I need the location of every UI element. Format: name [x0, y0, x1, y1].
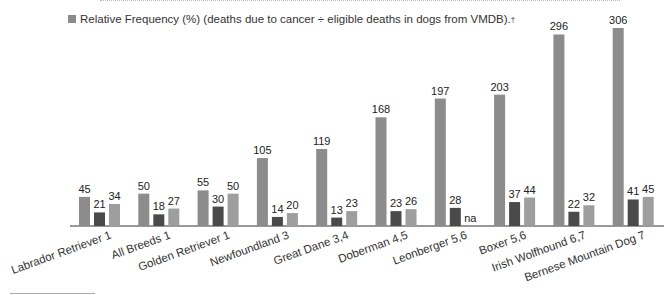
- footnote-rule: [10, 293, 95, 294]
- bar: [331, 218, 342, 226]
- bar-value-label: 50: [138, 180, 150, 192]
- bar-value-label: 41: [627, 185, 639, 197]
- bar: [138, 194, 149, 226]
- bar-value-label: 50: [227, 180, 239, 192]
- bar-value-label: 34: [108, 190, 120, 202]
- bar-value-label: 30: [212, 193, 224, 205]
- bar-value-label: 197: [431, 85, 449, 97]
- bar: [628, 199, 639, 226]
- bar: [435, 99, 446, 226]
- bar-value-label: 18: [153, 200, 165, 212]
- bar: [153, 214, 164, 226]
- bar-value-label: 21: [93, 198, 105, 210]
- bar: [568, 212, 579, 226]
- bar-value-label: 22: [568, 198, 580, 210]
- bar: [406, 209, 417, 226]
- bar: [524, 198, 535, 226]
- bar: [583, 205, 594, 226]
- bar: [257, 158, 268, 226]
- bar-value-label: 45: [78, 183, 90, 195]
- bar-value-label: 23: [346, 197, 358, 209]
- bar-value-label: 23: [390, 197, 402, 209]
- bar-value-label: 119: [313, 135, 331, 147]
- bar: [228, 194, 239, 226]
- bar: [109, 204, 120, 226]
- category-label: Labrador Retriever 1: [9, 229, 112, 276]
- bar: [494, 95, 505, 226]
- bar-value-label: 44: [523, 184, 535, 196]
- bar: [79, 197, 90, 226]
- bar-value-label: 26: [405, 195, 417, 207]
- bar-value-label: 14: [271, 203, 283, 215]
- bar-value-label: 28: [449, 194, 461, 206]
- bar-value-label: 296: [550, 20, 568, 32]
- bar: [391, 211, 402, 226]
- bar-value-label: 13: [331, 204, 343, 216]
- bar: [272, 217, 283, 226]
- bar-value-label: 32: [583, 191, 595, 203]
- bar-value-label: 168: [372, 103, 390, 115]
- bar: [376, 117, 387, 226]
- bar: [553, 34, 564, 226]
- bar: [198, 190, 209, 226]
- bar-value-label: 20: [286, 199, 298, 211]
- bar-value-label: 55: [197, 176, 209, 188]
- bar: [94, 212, 105, 226]
- bar-value-label: 45: [642, 183, 654, 195]
- bar-value-label: 37: [508, 188, 520, 200]
- bar: [613, 28, 624, 226]
- bar-value-label: 105: [253, 144, 271, 156]
- bar-value-label: 27: [168, 195, 180, 207]
- bar: [509, 202, 520, 226]
- bar: [213, 207, 224, 226]
- bar-value-label: 306: [609, 14, 627, 26]
- bar: [450, 208, 461, 226]
- bar: [168, 209, 179, 226]
- bar-value-label: na: [464, 212, 477, 224]
- bar: [643, 197, 654, 226]
- bar: [287, 213, 298, 226]
- bar-chart: 452134Labrador Retriever 1501827All Bree…: [0, 0, 671, 295]
- bar: [346, 211, 357, 226]
- bar-value-label: 203: [490, 81, 508, 93]
- bar: [316, 149, 327, 226]
